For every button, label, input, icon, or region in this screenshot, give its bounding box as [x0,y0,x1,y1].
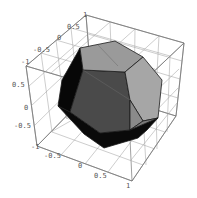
tick-label: 0 [57,34,61,42]
tick-label: 0 [24,104,28,112]
tick-label: -0.5 [44,152,61,160]
left-axis-ticks: 0.5 0 -0.5 [12,81,31,130]
dodecahedron-3d-plot: -1 -0.5 0 0.5 1 0.5 0 -0.5 -1 -0.5 0 0.5… [0,0,197,198]
tick-label: -0.5 [14,122,31,130]
dodecahedron [58,41,162,148]
tick-label: 0.5 [94,172,107,180]
bottom-axis-ticks: -1 -0.5 0 0.5 1 [31,143,130,190]
tick-label: 1 [83,11,87,19]
tick-label: -1 [21,58,29,66]
tick-label: 0 [78,162,82,170]
tick-label: -1 [31,143,39,151]
tick-label: 0.5 [67,23,80,31]
tick-label: 1 [126,182,130,190]
tick-label: 0.5 [12,81,25,89]
tick-label: -0.5 [33,46,50,54]
